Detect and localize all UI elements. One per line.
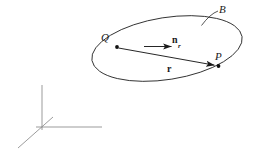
- unit-vector-nr-subscript: r: [178, 42, 181, 50]
- axis-diagonal: [18, 117, 53, 148]
- vector-diagram-figure: B Q P nr r: [0, 0, 260, 156]
- point-p-label: P: [215, 51, 222, 62]
- unit-vector-nr-label: nr: [172, 35, 180, 48]
- point-p-marker: [217, 64, 221, 68]
- point-q-label: Q: [101, 32, 109, 43]
- position-vector-r-label: r: [167, 64, 171, 74]
- body-label-b: B: [219, 4, 226, 15]
- coordinate-axes-triad: [18, 85, 102, 148]
- unit-vector-nr-base: n: [172, 34, 178, 45]
- figure-canvas: [0, 0, 260, 156]
- point-q-marker: [115, 45, 119, 49]
- body-boundary-ellipse: [87, 6, 247, 91]
